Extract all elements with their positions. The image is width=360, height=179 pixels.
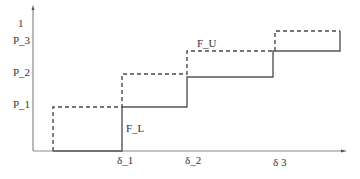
x-tick-label-delta1: δ_1 xyxy=(117,155,133,166)
y-tick-label-p1: P_1 xyxy=(13,99,30,110)
axes xyxy=(32,5,348,153)
x-tick-label-delta2: δ_2 xyxy=(185,155,201,166)
y-tick-label-p2: P_2 xyxy=(13,67,30,78)
curve-label-F_L: F_L xyxy=(126,123,144,134)
lower-bound-curve-F_L xyxy=(53,31,340,151)
y-axis-arrow-icon xyxy=(32,5,35,10)
y-tick-label-p3: P_3 xyxy=(13,35,30,46)
y-tick-label-1: 1 xyxy=(18,18,24,29)
step-bounds-diagram xyxy=(0,0,360,179)
x-axis-arrow-icon xyxy=(341,150,347,153)
upper-bound-curve-F_U xyxy=(53,31,340,151)
curve-label-F_U: F_U xyxy=(197,38,217,49)
x-tick-label-delta3: δ 3 xyxy=(273,157,286,168)
